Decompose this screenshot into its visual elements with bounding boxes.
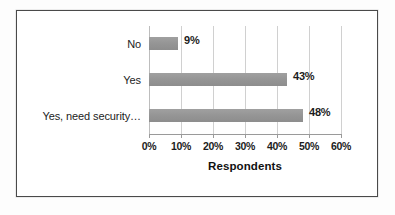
- bar-yes-need-security[interactable]: [149, 109, 303, 122]
- x-tick-40: [277, 134, 278, 138]
- x-tick-60: [341, 134, 342, 138]
- x-tick-labels: 0% 10% 20% 30% 40% 50% 60%: [149, 140, 341, 156]
- bar-value-no: 9%: [184, 34, 200, 46]
- x-axis-title: Respondents: [149, 160, 341, 172]
- x-tick-label-20: 20%: [203, 140, 223, 152]
- x-tick-label-10: 10%: [171, 140, 191, 152]
- category-label-yes: Yes: [123, 62, 141, 98]
- x-tick-label-30: 30%: [235, 140, 255, 152]
- x-tick-20: [213, 134, 214, 138]
- plot-area: 9% 43% 48%: [149, 26, 341, 134]
- x-tick-50: [309, 134, 310, 138]
- bar-value-yes-need-security: 48%: [309, 106, 330, 118]
- gridline-60: [341, 26, 342, 134]
- category-label-no: No: [127, 26, 141, 62]
- bar-row: 43%: [149, 62, 341, 98]
- x-tick-label-50: 50%: [299, 140, 319, 152]
- x-tick-label-60: 60%: [331, 140, 351, 152]
- x-tick-0: [149, 134, 150, 138]
- chart-frame: 9% 43% 48% No Yes Yes, need security… 0%…: [16, 10, 378, 197]
- bar-row: 9%: [149, 26, 341, 62]
- bar-no[interactable]: [149, 37, 178, 50]
- category-label-yes-need-security: Yes, need security…: [42, 98, 141, 134]
- bar-row: 48%: [149, 98, 341, 134]
- bar-value-yes: 43%: [293, 70, 314, 82]
- x-tick-10: [181, 134, 182, 138]
- x-tick-label-40: 40%: [267, 140, 287, 152]
- x-tick-label-0: 0%: [142, 140, 157, 152]
- x-tick-30: [245, 134, 246, 138]
- category-axis: No Yes Yes, need security…: [17, 26, 145, 134]
- bar-yes[interactable]: [149, 73, 287, 86]
